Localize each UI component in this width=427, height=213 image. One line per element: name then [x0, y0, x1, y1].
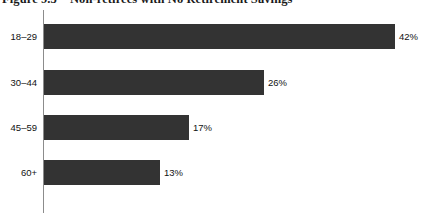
bar-row: 45–59 17% — [0, 115, 427, 140]
bar-value-label: 17% — [193, 115, 212, 140]
bar-row: 30–44 26% — [0, 70, 427, 95]
bar-value-label: 13% — [164, 160, 183, 185]
figure-title-text: Non-retirees with No Retirement Savings — [70, 0, 293, 6]
bar — [44, 115, 189, 140]
bar — [44, 24, 395, 49]
figure-number: Figure 9.3 — [2, 0, 57, 6]
bar-row: 18–29 42% — [0, 24, 427, 49]
bar-value-label: 42% — [399, 24, 418, 49]
figure-title: Figure 9.3Non-retirees with No Retiremen… — [2, 0, 422, 7]
category-label: 60+ — [0, 160, 37, 185]
bar — [44, 160, 160, 185]
bar — [44, 70, 264, 95]
bar-row: 60+ 13% — [0, 160, 427, 185]
figure-root: Figure 9.3Non-retirees with No Retiremen… — [0, 0, 427, 213]
bar-chart-plot-area: 18–29 42% 30–44 26% 45–59 17% 60+ 13% — [0, 10, 427, 213]
category-label: 18–29 — [0, 24, 37, 49]
category-label: 45–59 — [0, 115, 37, 140]
category-label: 30–44 — [0, 70, 37, 95]
bar-value-label: 26% — [268, 70, 287, 95]
